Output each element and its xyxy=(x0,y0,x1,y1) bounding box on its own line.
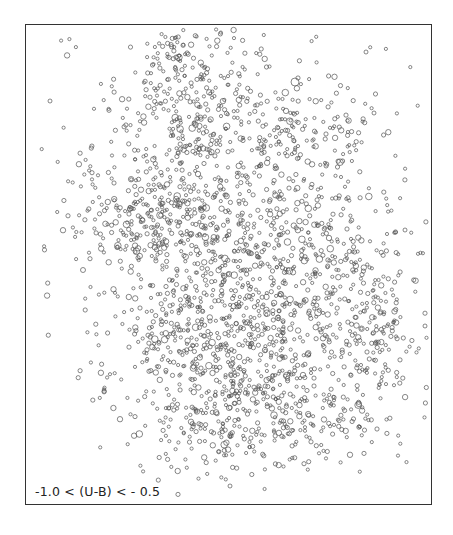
data-point xyxy=(358,258,361,261)
data-point xyxy=(236,409,239,412)
data-point xyxy=(325,326,328,329)
data-point xyxy=(253,338,256,341)
data-point xyxy=(308,98,311,101)
data-point xyxy=(181,138,184,141)
data-point xyxy=(342,365,346,369)
data-point xyxy=(176,41,179,44)
data-point xyxy=(272,365,275,368)
data-point xyxy=(282,89,289,96)
data-point xyxy=(92,107,95,110)
data-point xyxy=(185,233,188,236)
data-point xyxy=(225,419,228,422)
data-point xyxy=(272,344,275,347)
data-point xyxy=(303,419,306,422)
data-point xyxy=(253,316,256,319)
data-point xyxy=(387,210,390,213)
data-point xyxy=(236,444,239,447)
data-point xyxy=(98,396,101,399)
data-point xyxy=(191,66,194,69)
data-point xyxy=(223,76,226,79)
data-point xyxy=(100,203,103,206)
data-point xyxy=(331,260,336,265)
data-point xyxy=(378,351,381,354)
data-point xyxy=(291,322,294,325)
data-point xyxy=(327,245,334,252)
data-point xyxy=(204,102,208,106)
data-point xyxy=(143,395,147,399)
data-point xyxy=(321,233,324,236)
data-point xyxy=(168,192,171,195)
data-point xyxy=(269,276,273,280)
data-point xyxy=(183,64,186,67)
data-point xyxy=(170,159,173,162)
data-point xyxy=(330,303,333,306)
data-point xyxy=(372,351,375,354)
data-point xyxy=(118,259,122,263)
data-point xyxy=(424,220,428,224)
data-point xyxy=(272,422,275,425)
data-point xyxy=(319,163,322,166)
data-point xyxy=(330,101,333,104)
data-point xyxy=(350,408,353,411)
data-point xyxy=(163,90,166,93)
data-point xyxy=(153,195,156,198)
data-point xyxy=(248,409,251,412)
data-point xyxy=(166,457,170,461)
data-point xyxy=(361,265,366,270)
data-point xyxy=(154,314,158,318)
data-point xyxy=(320,196,323,199)
data-point xyxy=(218,184,223,189)
data-point xyxy=(153,162,157,166)
data-point xyxy=(166,346,169,349)
data-point xyxy=(233,374,236,377)
data-point xyxy=(244,231,247,234)
data-point xyxy=(146,212,149,215)
data-point xyxy=(83,308,87,312)
data-point xyxy=(128,45,132,49)
data-point xyxy=(211,294,214,297)
data-point xyxy=(293,353,297,357)
data-point xyxy=(248,378,251,381)
data-point xyxy=(156,57,159,60)
data-point xyxy=(299,83,302,86)
data-point xyxy=(200,395,203,398)
data-point xyxy=(266,385,270,389)
data-point xyxy=(178,142,182,146)
data-point xyxy=(231,61,234,64)
data-point xyxy=(367,357,371,361)
data-point xyxy=(199,154,202,157)
data-point xyxy=(358,338,362,342)
data-point xyxy=(138,306,142,310)
data-point xyxy=(78,369,82,373)
data-point xyxy=(372,111,376,115)
data-point xyxy=(362,428,366,432)
data-point xyxy=(244,339,247,342)
data-point xyxy=(178,383,181,386)
data-point xyxy=(193,384,196,387)
data-point xyxy=(144,88,148,92)
data-point xyxy=(263,468,266,471)
data-point xyxy=(162,421,165,424)
data-point xyxy=(137,399,140,402)
data-point xyxy=(350,333,354,337)
data-point xyxy=(118,214,121,217)
data-point xyxy=(309,162,314,167)
data-point xyxy=(241,38,245,42)
data-point xyxy=(352,245,356,249)
data-point xyxy=(217,176,220,179)
data-point xyxy=(257,174,261,178)
data-point xyxy=(214,319,217,322)
data-point xyxy=(305,205,312,212)
data-point xyxy=(361,393,364,396)
data-point xyxy=(223,385,226,388)
data-point xyxy=(175,100,178,103)
data-point xyxy=(249,359,252,362)
data-point xyxy=(208,45,211,48)
data-point xyxy=(238,295,241,298)
data-point xyxy=(342,383,345,386)
data-point xyxy=(102,251,105,254)
data-point xyxy=(62,126,65,129)
data-point xyxy=(242,236,245,239)
data-point xyxy=(373,283,376,286)
data-point xyxy=(342,242,345,245)
